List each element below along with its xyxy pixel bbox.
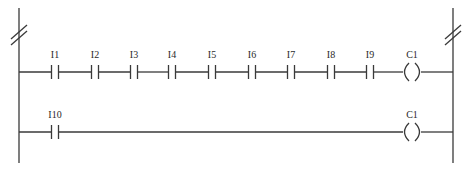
power-rails <box>11 8 461 163</box>
contact-i9-no-contact-icon: I9 <box>366 49 374 79</box>
coil-label: C1 <box>406 109 418 120</box>
contact-i8-no-contact-icon: I8 <box>327 49 335 79</box>
ladder-diagram: I1I2I3I4I5I6I7I8I9C1I10C1 <box>0 0 466 170</box>
contact-label: I10 <box>48 109 61 120</box>
contact-i10-no-contact-icon: I10 <box>48 109 61 139</box>
contact-i4-no-contact-icon: I4 <box>168 49 176 79</box>
contact-label: I3 <box>130 49 138 60</box>
contact-i7-no-contact-icon: I7 <box>287 49 295 79</box>
contact-label: I6 <box>248 49 256 60</box>
contact-label: I1 <box>51 49 59 60</box>
contact-label: I8 <box>327 49 335 60</box>
coil-c1-icon: C1 <box>405 109 420 141</box>
rung-1: I1I2I3I4I5I6I7I8I9C1 <box>19 49 453 81</box>
coil-c1-icon: C1 <box>405 49 420 81</box>
contact-label: I4 <box>168 49 176 60</box>
contact-i1-no-contact-icon: I1 <box>51 49 59 79</box>
contact-i3-no-contact-icon: I3 <box>130 49 138 79</box>
contact-label: I5 <box>208 49 216 60</box>
rungs: I1I2I3I4I5I6I7I8I9C1I10C1 <box>19 49 453 141</box>
contact-i5-no-contact-icon: I5 <box>208 49 216 79</box>
rung-2: I10C1 <box>19 109 453 141</box>
contact-label: I7 <box>287 49 295 60</box>
contact-i6-no-contact-icon: I6 <box>248 49 256 79</box>
contact-label: I2 <box>91 49 99 60</box>
contact-i2-no-contact-icon: I2 <box>91 49 99 79</box>
contact-label: I9 <box>366 49 374 60</box>
coil-label: C1 <box>406 49 418 60</box>
